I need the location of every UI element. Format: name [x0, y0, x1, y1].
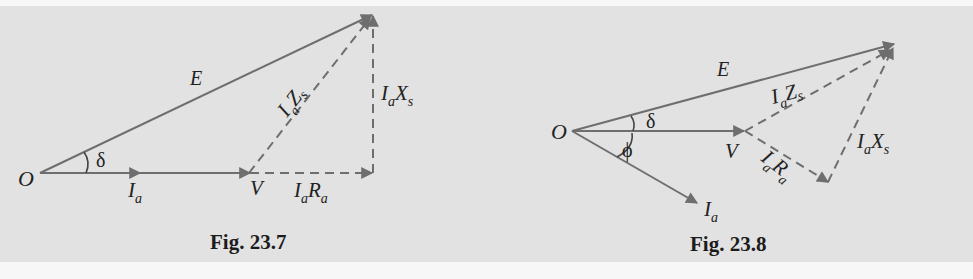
reactive-drop-phasor: [828, 48, 893, 182]
phasor-diagrams: O E δ Ia V IaRa IaXs IaZs O: [0, 0, 973, 279]
origin-label: O: [18, 166, 34, 191]
figure-caption-23-7: Fig. 23.7: [210, 230, 286, 255]
figure-23-8: O E δ ϕ Ia V IaRa IaXs IaZs: [551, 44, 894, 225]
delta-angle-arc: [631, 116, 634, 131]
origin-label: O: [551, 119, 567, 144]
reactive-drop-label: IaXs: [856, 129, 890, 157]
current-label: Ia: [703, 197, 718, 225]
impedance-drop-label: IaZs: [767, 78, 805, 113]
delta-label: δ: [96, 149, 105, 171]
impedance-drop-label: IaZs: [271, 81, 313, 124]
delta-label: δ: [646, 110, 655, 132]
resistive-drop-label: IaRa: [293, 178, 328, 206]
impedance-drop-phasor: [745, 50, 890, 131]
current-label: Ia: [127, 178, 142, 206]
voltage-label: V: [725, 139, 740, 163]
phi-label: ϕ: [622, 139, 633, 162]
figure-caption-23-8: Fig. 23.8: [690, 232, 766, 257]
emf-phasor: [572, 44, 894, 131]
emf-label: E: [189, 67, 202, 89]
delta-angle-arc: [84, 152, 88, 173]
current-phasor: [572, 131, 697, 203]
emf-label: E: [716, 58, 729, 80]
voltage-label: V: [250, 176, 265, 200]
emf-phasor: [40, 15, 372, 173]
reactive-drop-label: IaXs: [380, 81, 414, 109]
figure-23-7: O E δ Ia V IaRa IaXs IaZs: [18, 15, 414, 206]
impedance-drop-phasor: [249, 18, 370, 173]
